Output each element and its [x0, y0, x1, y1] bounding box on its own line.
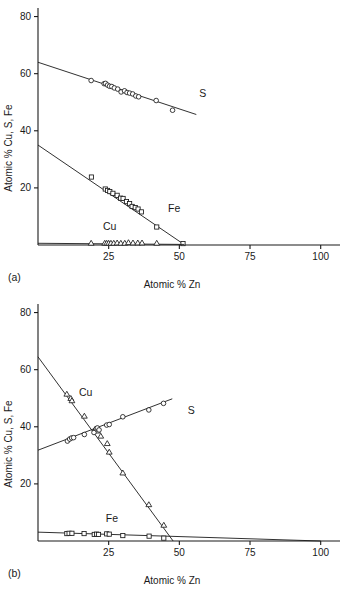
panel-a-xlabel: Atomic % Zn [144, 279, 201, 290]
chart-panel-b: 20406080255075100 CuSFe Atomic % Zn Atom… [0, 296, 347, 592]
x-tick-label: 25 [103, 547, 115, 558]
series-label-cu: Cu [79, 386, 93, 398]
x-tick-label: 75 [244, 547, 256, 558]
x-tick-label: 50 [174, 547, 186, 558]
data-point-square [96, 532, 100, 536]
data-point-circle [71, 435, 76, 440]
data-point-circle [89, 78, 94, 83]
x-tick-label: 100 [312, 547, 329, 558]
series-label-fe: Fe [106, 512, 118, 524]
series-label-s: S [199, 87, 206, 99]
data-point-circle [161, 401, 166, 406]
panel-b-axes: 20406080255075100 [20, 304, 340, 558]
data-point-square [121, 533, 125, 537]
data-point-triangle [120, 470, 126, 475]
data-point-square [181, 241, 185, 245]
data-point-circle [107, 422, 112, 427]
y-tick-label: 20 [20, 182, 32, 193]
trend-line-fe [38, 532, 321, 541]
series-label-fe: Fe [168, 202, 180, 214]
y-tick-label: 40 [20, 125, 32, 136]
panel-a-label: (a) [8, 271, 21, 283]
series-cu: Cu [38, 220, 184, 245]
data-point-triangle [146, 502, 152, 507]
y-tick-label: 60 [20, 364, 32, 375]
data-point-circle [97, 428, 102, 433]
panel-a-axes: 20406080255075100 [20, 8, 340, 262]
y-tick-label: 80 [20, 11, 32, 22]
x-tick-label: 25 [103, 251, 115, 262]
data-point-square [139, 210, 143, 214]
y-tick-label: 80 [20, 307, 32, 318]
data-point-square [155, 225, 159, 229]
series-s: S [38, 62, 206, 114]
series-s: S [38, 399, 195, 450]
panel-a-ylabel: Atomic % Cu, S, Fe [3, 104, 14, 192]
series-label-s: S [188, 404, 195, 416]
data-point-triangle [88, 240, 94, 245]
x-tick-label: 75 [244, 251, 256, 262]
data-point-square [147, 534, 151, 538]
y-tick-label: 20 [20, 478, 32, 489]
data-point-circle [136, 95, 141, 100]
data-point-square [107, 532, 111, 536]
series-label-cu: Cu [103, 220, 117, 232]
panel-b-xlabel: Atomic % Zn [144, 575, 201, 586]
data-point-triangle [81, 413, 87, 418]
data-point-square [82, 531, 86, 535]
data-point-square [162, 536, 166, 540]
data-point-square [70, 531, 74, 535]
data-point-square [111, 191, 115, 195]
y-tick-label: 60 [20, 68, 32, 79]
panel-b-label: (b) [8, 567, 21, 579]
x-tick-label: 100 [312, 251, 329, 262]
panel-b-series: CuSFe [38, 357, 321, 541]
data-point-circle [154, 98, 159, 103]
data-point-circle [82, 432, 87, 437]
data-point-circle [170, 108, 175, 113]
data-point-triangle [154, 240, 160, 245]
chart-panel-a: 20406080255075100 SFeCu Atomic % Zn Atom… [0, 0, 347, 296]
data-point-triangle [98, 433, 104, 438]
panel-b-svg: 20406080255075100 CuSFe Atomic % Zn Atom… [0, 296, 347, 592]
data-point-triangle [139, 240, 145, 245]
x-tick-label: 50 [174, 251, 186, 262]
series-fe: Fe [38, 512, 321, 541]
data-point-circle [121, 414, 126, 419]
data-point-circle [147, 408, 152, 413]
panel-b-ylabel: Atomic % Cu, S, Fe [3, 400, 14, 488]
panel-a-svg: 20406080255075100 SFeCu Atomic % Zn Atom… [0, 0, 347, 296]
data-point-square [89, 175, 93, 179]
panel-a-series: SFeCu [38, 62, 206, 245]
y-tick-label: 40 [20, 421, 32, 432]
data-point-triangle [104, 441, 110, 446]
